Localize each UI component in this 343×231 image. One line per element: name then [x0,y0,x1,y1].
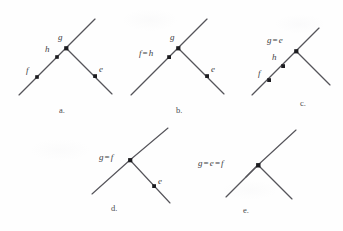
panel-c-edge-branch [296,51,330,85]
panel-c-label-equals: = [272,35,279,45]
panel-a-label-g: g [58,33,63,42]
panel-d-label-e: e [158,177,162,186]
panel-e-label-f: f [221,158,224,168]
panel-c-label-g-eq-e: g=e [267,36,283,45]
panel-d-edge-down-left [92,160,130,194]
panel-e-graph [226,130,296,199]
panel-c-label-h: h [272,53,277,62]
panel-a-node-e [93,74,97,78]
panel-d-caption: d. [111,204,117,213]
panel-b-label-g: g [170,33,175,42]
panel-b-node-e [205,74,209,78]
panel-c-node-g-eq-e [294,49,298,53]
panel-e-edge-down-right [258,165,292,199]
panel-c-label-e: e [279,35,283,45]
panel-a-label-f: f [26,66,29,75]
figure-root: g h f e a. g f=h e b. g=e h f c. g=f e d… [0,0,343,231]
panel-a-node-g [64,46,68,50]
panel-e-label-g: g [198,158,203,168]
panel-c-node-f [267,78,271,82]
panel-b-label-f-eq-h: f=h [139,49,153,58]
panel-e-caption: e. [243,206,249,215]
panel-d-label-f: f [111,152,114,162]
panel-b-caption: b. [176,106,182,115]
panel-d-label-equals: = [104,152,111,162]
panel-c-node-h [281,64,285,68]
panel-a-graph [19,19,112,95]
panel-c-edge-main [252,28,319,95]
panel-b-edge-branch [178,48,224,94]
panel-d-edge-down-right [130,160,170,203]
panel-a-caption: a. [59,106,65,115]
panel-c-label-g: g [267,35,272,45]
panel-e-label-g-eq-e-eq-f: g=e=f [198,159,224,168]
panel-d-edge-up-right [130,128,168,160]
panel-c-label-f: f [258,69,261,78]
panel-a-edge-branch [66,48,112,94]
panel-a-label-h: h [45,45,50,54]
panel-d-label-g: g [99,152,104,162]
panel-c-caption: c. [300,99,306,108]
panel-b-label-h: h [149,48,154,58]
panel-c-graph [252,28,330,95]
panel-b-label-e: e [211,65,215,74]
panel-e-node-g-eq-e-eq-f [256,163,260,167]
panel-d-node-g-eq-f [128,158,132,162]
panel-b-node-f-eq-h [167,55,171,59]
panel-d-label-g-eq-f: g=f [99,153,113,162]
panel-e-label-equals-1: = [203,158,210,168]
panel-a-node-f [35,75,39,79]
panel-b-label-equals: = [142,48,149,58]
panel-a-node-h [55,55,59,59]
panel-b-node-g [176,46,180,50]
panel-a-label-e: e [99,65,103,74]
panel-d-node-e [152,184,156,188]
panel-e-edge-up-right [258,130,296,165]
panel-d-graph [92,128,170,203]
